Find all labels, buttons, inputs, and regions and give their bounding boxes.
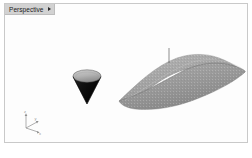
tab-perspective-label: Perspective: [9, 6, 44, 13]
perspective-viewport[interactable]: z y x Perspective: [4, 3, 248, 143]
chevron-right-icon[interactable]: [48, 7, 51, 11]
tab-perspective[interactable]: Perspective: [5, 4, 55, 15]
viewport-tabbar: Perspective: [5, 4, 247, 15]
surface-geometry: [119, 48, 245, 110]
cone-geometry: [73, 70, 101, 104]
app-root: z y x Perspective: [0, 0, 252, 158]
axis-label-x: x: [39, 131, 41, 136]
caption-strip: [0, 146, 252, 158]
axis-triad: z y x: [18, 110, 48, 136]
axis-label-y: y: [35, 116, 37, 121]
axis-label-z: z: [24, 110, 26, 114]
